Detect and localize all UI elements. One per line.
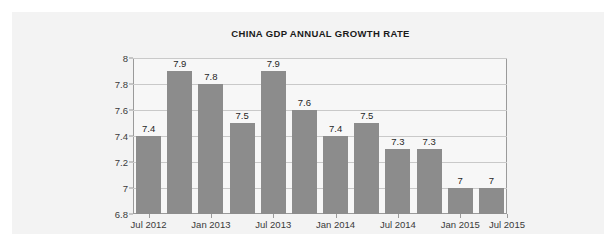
bar[interactable] bbox=[167, 71, 192, 214]
x-tick-label: Jul 2014 bbox=[380, 219, 416, 230]
bar-value-label: 7.3 bbox=[422, 136, 435, 147]
chart-panel: CHINA GDP ANNUAL GROWTH RATE 87.87.67.47… bbox=[12, 12, 604, 234]
y-tick-label: 7 bbox=[123, 183, 128, 194]
bar-value-label: 7.9 bbox=[173, 58, 186, 69]
bar[interactable] bbox=[417, 149, 442, 214]
x-tick-mark bbox=[398, 214, 399, 218]
bar-value-label: 7.5 bbox=[360, 110, 373, 121]
bar-value-label: 7.6 bbox=[298, 97, 311, 108]
x-tick-label: Jul 2012 bbox=[131, 219, 167, 230]
bar-value-label: 7.9 bbox=[267, 58, 280, 69]
x-tick-label: Jan 2013 bbox=[191, 219, 230, 230]
x-tick-mark bbox=[507, 214, 508, 218]
bar-value-label: 7.4 bbox=[142, 123, 155, 134]
plot-wrapper: 87.87.67.47.276.8 7.47.97.87.57.97.67.47… bbox=[133, 58, 507, 214]
bar[interactable] bbox=[261, 71, 286, 214]
y-tick-label: 8 bbox=[123, 53, 128, 64]
x-tick-mark bbox=[149, 214, 150, 218]
bar-value-label: 7.3 bbox=[391, 136, 404, 147]
x-tick-mark bbox=[460, 214, 461, 218]
x-tick-label: Jan 2014 bbox=[316, 219, 355, 230]
bar[interactable] bbox=[385, 149, 410, 214]
bar[interactable] bbox=[448, 188, 473, 214]
x-tick-label: Jul 2013 bbox=[255, 219, 291, 230]
x-tick-mark bbox=[273, 214, 274, 218]
x-tick-mark bbox=[211, 214, 212, 218]
bar[interactable] bbox=[198, 84, 223, 214]
y-tick-label: 6.8 bbox=[115, 209, 128, 220]
bar[interactable] bbox=[230, 123, 255, 214]
y-tick-label: 7.2 bbox=[115, 157, 128, 168]
bar-value-label: 7.5 bbox=[235, 110, 248, 121]
bar-value-label: 7.8 bbox=[204, 71, 217, 82]
y-tick-label: 7.8 bbox=[115, 79, 128, 90]
bar[interactable] bbox=[354, 123, 379, 214]
bar-value-label: 7 bbox=[458, 175, 463, 186]
x-tick-label: Jan 2015 bbox=[441, 219, 480, 230]
bar-value-label: 7.4 bbox=[329, 123, 342, 134]
x-tick-mark bbox=[336, 214, 337, 218]
bar[interactable] bbox=[479, 188, 504, 214]
x-tick-label: Jul 2015 bbox=[489, 219, 525, 230]
y-tick-label: 7.6 bbox=[115, 105, 128, 116]
y-tick-label: 7.4 bbox=[115, 131, 128, 142]
bar-series: 7.47.97.87.57.97.67.47.57.37.377 bbox=[133, 58, 507, 214]
bar[interactable] bbox=[292, 110, 317, 214]
bar-value-label: 7 bbox=[489, 175, 494, 186]
chart-title: CHINA GDP ANNUAL GROWTH RATE bbox=[133, 28, 508, 39]
bar[interactable] bbox=[323, 136, 348, 214]
bar[interactable] bbox=[136, 136, 161, 214]
